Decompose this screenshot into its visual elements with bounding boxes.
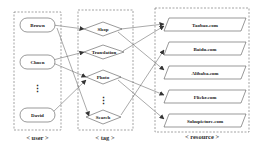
user-group-caption: < user > bbox=[26, 134, 49, 141]
user-tag-resource-diagram: Brown Chuen ⋮ David Shop Translation Pho… bbox=[0, 0, 263, 150]
tag-label-translation: Translation bbox=[92, 50, 117, 55]
user-label-brown: Brown bbox=[30, 23, 45, 28]
resource-node-sohupicture: Sohupicture.com bbox=[164, 114, 246, 127]
user-node-chuen: Chuen bbox=[20, 55, 55, 69]
tag-ellipsis: ⋮ bbox=[99, 96, 108, 106]
user-node-brown: Brown bbox=[20, 18, 55, 32]
edges-tag-resource bbox=[118, 24, 164, 119]
edge-brown-search bbox=[57, 28, 89, 116]
edge-chuen-translation bbox=[53, 52, 84, 60]
edge-david-photo bbox=[52, 80, 86, 113]
resource-label-sohupicture: Sohupicture.com bbox=[187, 119, 224, 124]
edge-brown-shop bbox=[53, 25, 84, 29]
user-node-david: David bbox=[20, 108, 55, 122]
edge-chuen-photo bbox=[53, 63, 86, 77]
edge-photo-flickr bbox=[120, 77, 164, 95]
tag-group-caption: < tag > bbox=[95, 134, 115, 141]
tag-node-search: Search bbox=[86, 110, 121, 124]
resource-node-alibaba: Alibaba.com bbox=[164, 66, 246, 79]
edge-search-baidu bbox=[121, 50, 164, 115]
tag-node-photo: Photo bbox=[86, 70, 121, 84]
resource-node-taobao: Taobao.com bbox=[164, 18, 246, 31]
tag-label-search: Search bbox=[96, 115, 111, 120]
resource-node-baidu: Baidu.com bbox=[164, 42, 246, 55]
edge-translation-taobao bbox=[123, 26, 164, 51]
resource-label-alibaba: Alibaba.com bbox=[191, 71, 219, 76]
tag-label-shop: Shop bbox=[98, 27, 109, 32]
resource-label-flickr: Flickr.com bbox=[194, 95, 218, 100]
resource-group-caption: < resource > bbox=[185, 133, 220, 140]
user-label-david: David bbox=[31, 113, 44, 118]
resource-label-taobao: Taobao.com bbox=[192, 23, 219, 28]
resource-label-baidu: Baidu.com bbox=[194, 47, 218, 52]
resource-node-flickr: Flickr.com bbox=[164, 90, 246, 103]
user-ellipsis: ⋮ bbox=[33, 84, 42, 94]
tag-node-shop: Shop bbox=[84, 22, 122, 36]
edge-shop-taobao bbox=[121, 24, 164, 29]
edges-user-tag bbox=[52, 25, 89, 116]
tag-label-photo: Photo bbox=[97, 75, 110, 80]
edge-shop-alibaba bbox=[118, 32, 164, 70]
tag-node-translation: Translation bbox=[84, 45, 124, 59]
user-label-chuen: Chuen bbox=[30, 60, 44, 65]
